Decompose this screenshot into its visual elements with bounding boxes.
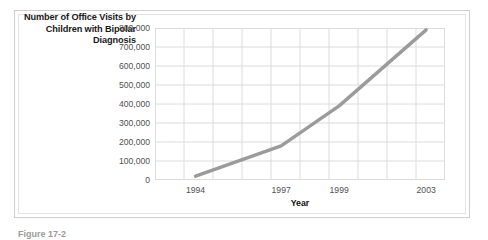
y-axis-tick: 200,000: [92, 138, 150, 147]
x-axis-tick-labels: 1994199719992003: [155, 185, 445, 197]
line-series-office-visits: [155, 28, 445, 180]
x-axis-tick: 1999: [317, 185, 361, 195]
y-axis-tick: 800,000: [92, 24, 150, 33]
figure-caption: Figure 17-2: [18, 229, 66, 239]
y-axis-tick: 0: [92, 176, 150, 185]
x-axis-tick: 1994: [174, 185, 218, 195]
y-axis-tick: 300,000: [92, 119, 150, 128]
x-axis-tick: 1997: [259, 185, 303, 195]
y-axis-tick: 600,000: [92, 62, 150, 71]
x-axis-title: Year: [155, 198, 445, 208]
y-axis-tick: 400,000: [92, 100, 150, 109]
y-axis-tick: 100,000: [92, 157, 150, 166]
x-axis-tick: 2003: [404, 185, 448, 195]
y-axis-tick-labels: 800,000700,000600,000500,000400,000300,0…: [92, 28, 150, 180]
y-axis-tick: 500,000: [92, 81, 150, 90]
plot-area: [155, 28, 445, 180]
y-axis-tick: 700,000: [92, 43, 150, 52]
